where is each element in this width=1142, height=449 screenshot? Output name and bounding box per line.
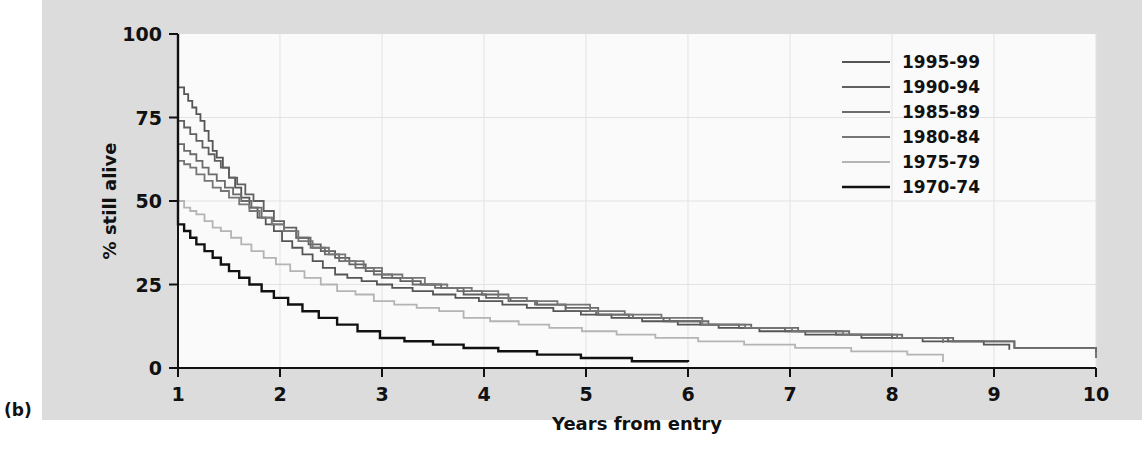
legend-label-1990-94: 1990-94 bbox=[902, 77, 980, 97]
y-tick-label: 25 bbox=[136, 274, 162, 296]
y-tick-label: 75 bbox=[136, 107, 162, 129]
legend-label-1975-79: 1975-79 bbox=[902, 152, 980, 172]
x-tick-label: 8 bbox=[885, 383, 898, 405]
legend-label-1995-99: 1995-99 bbox=[902, 52, 980, 72]
legend-label-1970-74: 1970-74 bbox=[902, 177, 980, 197]
legend-label-1985-89: 1985-89 bbox=[902, 102, 980, 122]
panel-label: (b) bbox=[4, 400, 32, 420]
y-tick-label: 100 bbox=[122, 23, 162, 45]
series-line-1970-74 bbox=[178, 34, 688, 362]
x-tick-label: 1 bbox=[171, 383, 184, 405]
chart-legend: 1995-991990-941985-891980-841975-791970-… bbox=[842, 52, 980, 197]
y-axis-title: % still alive bbox=[99, 143, 120, 260]
series-line-1995-99 bbox=[178, 34, 1009, 350]
x-tick-label: 9 bbox=[987, 383, 1000, 405]
x-tick-label: 10 bbox=[1083, 383, 1109, 405]
x-axis-title: Years from entry bbox=[551, 413, 722, 434]
series-line-1975-79 bbox=[178, 34, 943, 362]
x-tick-label: 5 bbox=[579, 383, 592, 405]
x-tick-label: 7 bbox=[783, 383, 796, 405]
legend-label-1980-84: 1980-84 bbox=[902, 127, 980, 147]
x-tick-label: 4 bbox=[477, 383, 490, 405]
y-tick-label: 50 bbox=[136, 190, 162, 212]
series-line-1980-84 bbox=[178, 34, 943, 343]
x-tick-label: 3 bbox=[375, 383, 388, 405]
y-tick-label: 0 bbox=[149, 357, 162, 379]
x-tick-label: 2 bbox=[273, 383, 286, 405]
survival-chart: 025507510012345678910 Years from entry% … bbox=[0, 0, 1142, 449]
x-tick-label: 6 bbox=[681, 383, 694, 405]
